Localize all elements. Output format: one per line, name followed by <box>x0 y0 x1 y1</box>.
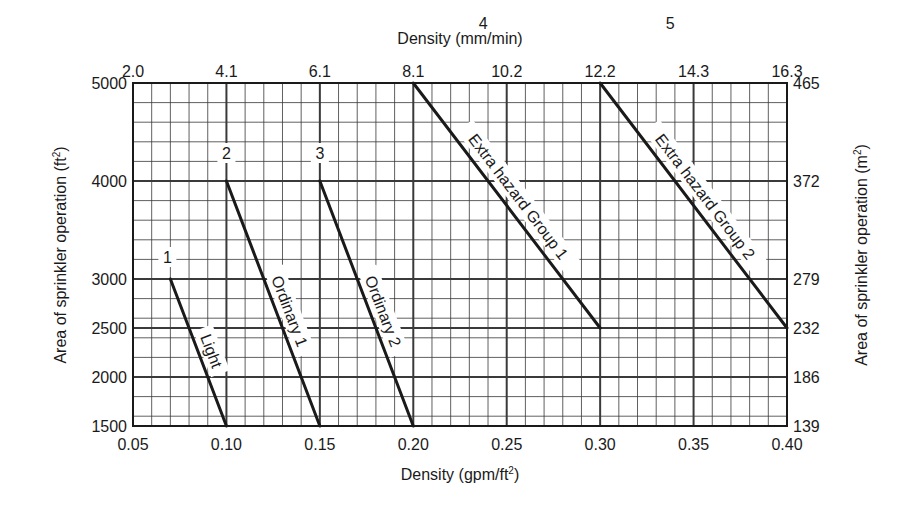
x-tick-label-bottom: 0.40 <box>771 436 802 453</box>
series-line-3 <box>320 181 413 426</box>
x-tick-label-bottom: 0.20 <box>398 436 429 453</box>
series-name-label: Extra hazard Group 1 <box>465 131 571 263</box>
y-tick-label-right: 279 <box>793 271 820 288</box>
x-tick-label-bottom: 0.05 <box>117 436 148 453</box>
y-tick-label-left: 1500 <box>91 418 127 435</box>
y-tick-label-left: 5000 <box>91 75 127 92</box>
series-number-label: 3 <box>315 145 324 162</box>
x-tick-label-bottom: 0.35 <box>678 436 709 453</box>
x-axis-bottom-ticks: 0.050.100.150.200.250.300.350.40 <box>117 436 802 453</box>
x-tick-label-top: 4.1 <box>215 63 237 80</box>
left-axis-title: Area of sprinkler operation (ft2) <box>51 146 69 363</box>
x-tick-label-top: 10.2 <box>491 63 522 80</box>
y-axis-right-ticks: 139186232279372465 <box>793 75 820 435</box>
top-axis-title: Density (mm/min) <box>397 30 522 47</box>
y-tick-label-right: 372 <box>793 173 820 190</box>
x-tick-label-top: 8.1 <box>402 63 424 80</box>
y-tick-label-left: 4000 <box>91 173 127 190</box>
series-number-label: 5 <box>666 15 675 32</box>
y-tick-label-right: 139 <box>793 418 820 435</box>
x-axis-top-ticks: 2.04.16.18.110.212.214.316.3 <box>122 63 803 80</box>
series-line-2 <box>226 181 319 426</box>
x-tick-label-top: 6.1 <box>309 63 331 80</box>
x-tick-label-top: 12.2 <box>585 63 616 80</box>
x-tick-label-bottom: 0.25 <box>491 436 522 453</box>
sprinkler-design-chart: 1Light2Ordinary 13Ordinary 24Extra hazar… <box>0 0 903 517</box>
y-tick-label-right: 465 <box>793 75 820 92</box>
bottom-axis-title: Density (gpm/ft2) <box>401 465 519 483</box>
y-axis-left-ticks: 150020002500300040005000 <box>91 75 127 435</box>
x-tick-label-bottom: 0.30 <box>585 436 616 453</box>
y-tick-label-left: 2000 <box>91 369 127 386</box>
series-name-label: Extra hazard Group 2 <box>652 131 758 263</box>
series-name-label-group: Extra hazard Group 2 <box>644 120 768 274</box>
x-tick-label-bottom: 0.15 <box>304 436 335 453</box>
series-number-label: 1 <box>163 249 172 266</box>
series-number-label: 2 <box>222 145 231 162</box>
y-tick-label-left: 3000 <box>91 271 127 288</box>
y-tick-label-left: 2500 <box>91 320 127 337</box>
right-axis-title: Area of sprinkler operation (m2) <box>852 144 870 366</box>
series-labels: 1Light2Ordinary 13Ordinary 24Extra hazar… <box>163 15 768 377</box>
series-name-label-group: Extra hazard Group 1 <box>457 120 581 274</box>
x-tick-label-top: 14.3 <box>678 63 709 80</box>
x-tick-label-bottom: 0.10 <box>211 436 242 453</box>
y-tick-label-right: 186 <box>793 369 820 386</box>
y-tick-label-right: 232 <box>793 320 820 337</box>
